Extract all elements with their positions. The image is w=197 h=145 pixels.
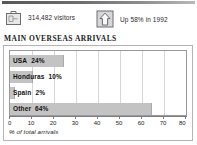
stat-visitors-label: 314,482 visitors [28,15,75,22]
bar-label-spain: Spain2% [13,88,45,98]
x-axis-label: % of total arrivals [9,128,58,135]
suitcase-icon [4,8,24,28]
x-tick-label: 30 [72,119,79,127]
bar-value-label: 2% [35,89,45,96]
stat-growth-label: Up 58% in 1992 [120,17,168,24]
gridline [186,51,187,115]
stat-visitors: 314,482 visitors [4,8,75,28]
x-tick-label: 70 [160,119,167,127]
bar-series: USA24%Honduras10%Spain2%Other64% [10,51,186,115]
bar-row[interactable]: Spain2% [10,86,186,101]
x-tick-label: 50 [116,119,123,127]
bar-value-label: 10% [49,73,62,80]
x-tick-label: 0 [8,119,11,127]
bar-label-usa: USA24% [13,56,45,66]
bar-row[interactable]: Honduras10% [10,70,186,85]
plot-area: USA24%Honduras10%Spain2%Other64% [9,50,187,116]
bar-category-name: USA [13,57,27,64]
x-tick-label: 40 [94,119,101,127]
x-tick-label: 20 [50,119,57,127]
bar-row[interactable]: USA24% [10,54,186,69]
infographic-page: 314,482 visitors Up 58% in 1992 MAIN OVE… [0,0,197,145]
bar-category-name: Other [13,105,31,112]
bar-label-honduras: Honduras10% [13,72,62,82]
bar-category-name: Spain [13,89,31,96]
x-axis: 01020304050607080 [9,116,187,128]
bar-row[interactable]: Other64% [10,102,186,116]
chart-title: MAIN OVERSEAS ARRIVALS [4,34,117,43]
x-axis-line [9,116,187,117]
bar-value-label: 24% [31,57,44,64]
x-tick-label: 10 [28,119,35,127]
bar-value-label: 64% [35,105,48,112]
bar-category-name: Honduras [13,73,45,80]
chart-panel: USA24%Honduras10%Spain2%Other64% 0102030… [3,45,193,141]
x-tick-label: 60 [138,119,145,127]
stats-strip: 314,482 visitors Up 58% in 1992 [0,8,197,32]
up-arrow-icon [96,10,116,30]
bar-label-other: Other64% [13,104,49,114]
stat-growth: Up 58% in 1992 [96,10,168,30]
x-tick-label: 80 [179,119,186,127]
top-divider-rule [2,1,195,4]
